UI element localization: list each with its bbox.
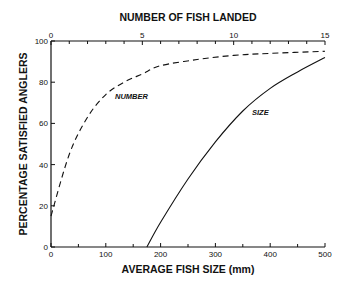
chart: 0100200300400500051015020406080100 NUMBE… [0,0,350,290]
x-tick-label: 500 [318,250,332,259]
x-tick-label: 0 [49,250,54,259]
bottom-axis-title: AVERAGE FISH SIZE (mm) [122,263,255,275]
x2-tick-label: 0 [49,31,54,40]
x-tick-label: 400 [264,250,278,259]
x-tick-label: 300 [209,250,223,259]
x2-tick-label: 10 [229,31,238,40]
size-series-label: SIZE [252,108,270,117]
axis-ticks [51,41,325,247]
y-tick-label: 100 [35,37,49,46]
y-tick-label: 60 [39,119,48,128]
number-series-label: NUMBER [115,92,148,101]
y-tick-label: 20 [39,202,48,211]
number-curve [51,51,325,216]
x-tick-label: 200 [154,250,168,259]
size-curve [147,58,325,248]
x2-tick-label: 15 [321,31,330,40]
y-tick-label: 0 [44,243,49,252]
y-axis-title: PERCENTAGE SATISFIED ANGLERS [17,53,29,236]
x-tick-label: 100 [99,250,113,259]
tick-labels: 0100200300400500051015020406080100 [35,31,333,259]
top-axis-title: NUMBER OF FISH LANDED [119,11,256,23]
y-tick-label: 40 [39,161,48,170]
x2-tick-label: 5 [140,31,145,40]
y-tick-label: 80 [39,78,48,87]
